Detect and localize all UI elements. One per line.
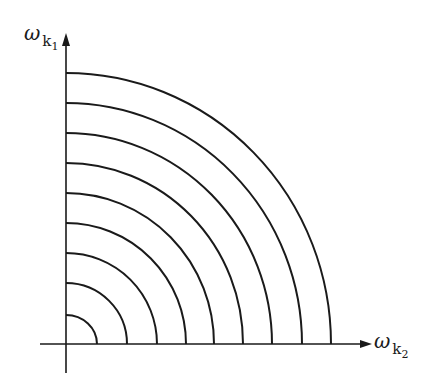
arc-9 [66, 73, 331, 344]
y-axis-label: ωk1 [24, 21, 58, 53]
arc-1 [66, 315, 97, 344]
y-axis-arrowhead-icon [62, 33, 70, 46]
arc-3 [66, 253, 157, 344]
concentric-arcs [66, 73, 331, 344]
x-axis-arrowhead-icon [360, 340, 372, 348]
diagram-canvas: ωk1 ωk2 [0, 0, 425, 389]
arc-4 [66, 223, 186, 344]
arc-6 [66, 163, 243, 344]
arc-8 [66, 103, 302, 344]
x-axis-label: ωk2 [374, 329, 408, 361]
